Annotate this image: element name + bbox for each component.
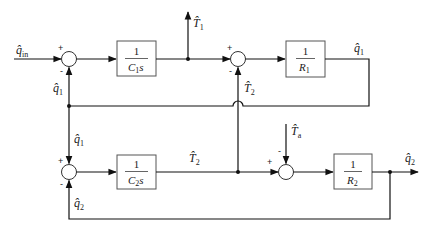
summing-junction-4 [279, 165, 294, 180]
sum3-plus-sign: + [58, 156, 63, 166]
sum2-minus-sign: - [229, 66, 232, 76]
svg-text:T̂2: T̂2 [189, 151, 200, 167]
svg-text:q̂2: q̂2 [74, 196, 84, 212]
svg-text:q̂2: q̂2 [405, 151, 415, 167]
label-q2-out: q̂2 [405, 151, 415, 167]
label-q2-fb: q̂2 [74, 196, 84, 212]
label-t2-up: T̂2 [244, 81, 255, 97]
sum1-plus-sign: + [58, 43, 63, 53]
c2s-numerator: 1 [134, 158, 140, 170]
svg-text:T̂1: T̂1 [193, 16, 204, 32]
label-t2: T̂2 [189, 151, 200, 167]
svg-text:q̂1: q̂1 [53, 81, 63, 97]
sum4-plus-sign: + [267, 157, 272, 167]
label-q1-fb: q̂1 [53, 81, 63, 97]
block-diagram: q̂in + - 1 C1s T̂1 + - 1 R1 q̂1 q̂1 q̂1 [0, 0, 432, 232]
label-q1-down: q̂1 [74, 132, 84, 148]
summing-junction-2 [231, 52, 246, 67]
sum1-minus-sign: - [60, 66, 63, 76]
r2-numerator: 1 [350, 158, 356, 170]
sum2-plus-sign: + [227, 43, 232, 53]
svg-text:q̂1: q̂1 [354, 41, 364, 57]
label-ta: T̂a [291, 124, 302, 140]
label-q-in: q̂in [16, 43, 28, 59]
summing-junction-3 [62, 165, 77, 180]
svg-text:T̂2: T̂2 [244, 81, 255, 97]
svg-text:T̂a: T̂a [291, 124, 302, 140]
summing-junction-1 [62, 52, 77, 67]
label-t1: T̂1 [193, 16, 204, 32]
sum4-minus-sign: - [278, 146, 281, 156]
svg-text:q̂in: q̂in [16, 43, 28, 59]
r1-numerator: 1 [303, 45, 309, 57]
svg-text:q̂1: q̂1 [74, 132, 84, 148]
sum3-minus-sign: - [60, 179, 63, 189]
label-q1-out: q̂1 [354, 41, 364, 57]
c1s-numerator: 1 [134, 45, 140, 57]
